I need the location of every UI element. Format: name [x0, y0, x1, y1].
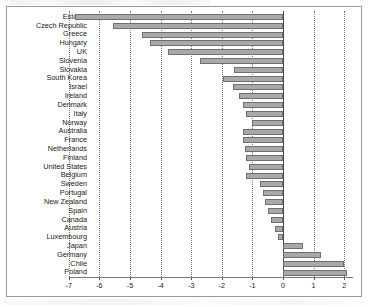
gridline-x	[99, 11, 100, 277]
category-label: Chile	[70, 260, 87, 268]
bar	[252, 120, 283, 126]
bar	[278, 234, 283, 240]
category-label: Portugal	[60, 189, 87, 197]
bar	[243, 102, 283, 108]
category-label: France	[64, 136, 87, 144]
x-tick-label: -7	[59, 281, 79, 290]
gridline-x	[130, 11, 131, 277]
bar	[239, 93, 283, 99]
category-label: Poland	[64, 268, 87, 276]
bar	[245, 146, 283, 152]
bar	[246, 111, 283, 117]
bar	[283, 243, 303, 249]
category-label: Germany	[57, 251, 87, 259]
x-tick-label: -4	[151, 281, 171, 290]
x-tick-label: -5	[120, 281, 140, 290]
bar	[275, 226, 283, 232]
category-label: United States	[43, 163, 87, 171]
bar	[223, 76, 283, 82]
bar	[265, 199, 283, 205]
bar-chart: -7-6-5-4-3-2-1012EstoniaCzech RepublicGr…	[0, 0, 370, 307]
category-label: Austria	[64, 224, 87, 232]
bar	[142, 32, 283, 38]
gridline-x	[314, 11, 315, 277]
bar	[249, 164, 283, 170]
bar	[243, 129, 283, 135]
x-tick-label: -1	[242, 281, 262, 290]
plot-area: -7-6-5-4-3-2-1012EstoniaCzech RepublicGr…	[0, 0, 370, 307]
x-axis-line	[70, 277, 353, 278]
x-tick-label: -2	[212, 281, 232, 290]
category-label: Canada	[61, 216, 87, 224]
bar	[150, 40, 283, 46]
bar	[283, 252, 321, 258]
x-tick-label: 1	[304, 281, 324, 290]
category-label: South Korea	[46, 74, 87, 82]
bar	[246, 173, 283, 179]
category-label: Spain	[68, 207, 87, 215]
category-label: Australia	[59, 127, 87, 135]
category-label: Denmark	[57, 101, 87, 109]
category-label: New Zealand	[44, 198, 87, 206]
category-label: Netherlands	[48, 145, 87, 153]
category-label: Japan	[67, 242, 87, 250]
category-label: Slovakia	[59, 66, 87, 74]
category-label: UK	[77, 48, 87, 56]
category-label: Ireland	[65, 92, 87, 100]
bar	[113, 23, 283, 29]
bar	[243, 137, 283, 143]
category-label: Italy	[74, 110, 87, 118]
bar	[200, 58, 283, 64]
zero-reference-line	[283, 11, 284, 277]
x-tick-label: 2	[334, 281, 354, 290]
bar	[75, 14, 283, 20]
x-tick-label: -6	[89, 281, 109, 290]
bar	[260, 181, 283, 187]
gridline-x	[161, 11, 162, 277]
category-label: Sweden	[61, 180, 87, 188]
x-tick-label: 0	[273, 281, 293, 290]
bar	[168, 49, 283, 55]
category-label: Luxembourg	[46, 233, 87, 241]
bar	[283, 261, 344, 267]
category-label: Finland	[63, 154, 87, 162]
bar	[268, 208, 283, 214]
bar	[233, 84, 283, 90]
category-label: Slovenia	[59, 57, 87, 65]
bar	[263, 190, 283, 196]
bar	[283, 270, 347, 276]
category-label: Israel	[69, 83, 87, 91]
category-label: Norway	[62, 119, 87, 127]
x-tick-label: -3	[181, 281, 201, 290]
bar	[234, 67, 283, 73]
gridline-x	[344, 11, 345, 277]
bar	[246, 155, 283, 161]
category-label: Greece	[63, 30, 87, 38]
category-label: Czech Republic	[36, 22, 87, 30]
category-label: Belgium	[61, 171, 87, 179]
category-label: Hungary	[59, 39, 87, 47]
bar	[271, 217, 283, 223]
